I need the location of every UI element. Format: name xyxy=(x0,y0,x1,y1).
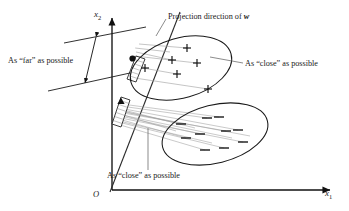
y-axis-label-subscript: 2 xyxy=(98,14,101,21)
vector-w-symbol: w xyxy=(244,12,249,21)
x-axis-label: x1 xyxy=(325,189,332,200)
close-right-leader-line xyxy=(210,57,243,63)
origin-label: O xyxy=(93,190,99,199)
far-as-possible-label: As “far” as possible xyxy=(8,57,73,65)
negative-projection-rays xyxy=(114,104,251,150)
projection-leader-line xyxy=(156,19,166,36)
positive-projection-band xyxy=(127,55,145,82)
projection-direction-text: Projection direction of xyxy=(168,12,242,21)
projection-direction-label: Projection direction of w xyxy=(168,13,249,21)
upper-reference-line xyxy=(64,27,146,43)
positive-class-mean-marker xyxy=(129,55,135,61)
lower-reference-line xyxy=(48,73,130,91)
x-axis-label-subscript: 1 xyxy=(329,193,332,200)
close-as-possible-right-label: As “close” as possible xyxy=(245,60,318,68)
close-as-possible-bottom-label: As “close” as possible xyxy=(107,172,180,180)
separation-arrow xyxy=(85,37,96,83)
y-axis-label: x2 xyxy=(94,10,101,21)
